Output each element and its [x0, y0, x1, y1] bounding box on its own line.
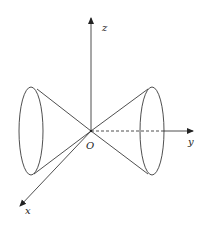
left-cone-upper-edge — [37, 89, 91, 131]
x-label: x — [25, 205, 31, 216]
x-axis — [20, 131, 91, 206]
z-label: z — [101, 22, 108, 33]
cone-diagram: z y x O — [0, 0, 207, 228]
y-label: y — [187, 136, 194, 147]
left-cone-base — [19, 87, 43, 175]
right-cone-lower-edge — [91, 131, 148, 174]
origin-label: O — [86, 140, 94, 151]
right-cone-upper-edge — [91, 89, 148, 131]
origin-point — [90, 130, 92, 132]
